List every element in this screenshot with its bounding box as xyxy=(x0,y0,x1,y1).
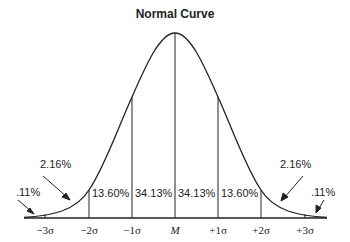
tick-minus-1-sigma: −1σ xyxy=(123,224,141,236)
arrow-right-2pct xyxy=(281,176,303,201)
tick-plus-3-sigma: +3σ xyxy=(296,224,314,236)
pct-label-left-34: 34.13% xyxy=(135,187,173,199)
pct-label-right-2: 2.16% xyxy=(280,158,311,170)
tick-minus-3-sigma: −3σ xyxy=(36,224,54,236)
normal-curve-chart: .11% 2.16% 13.60% 34.13% 34.13% 13.60% 2… xyxy=(0,0,350,242)
pct-label-left-13: 13.60% xyxy=(92,187,130,199)
arrow-far-left xyxy=(18,200,34,214)
tick-plus-1-sigma: +1σ xyxy=(209,224,227,236)
arrow-far-right xyxy=(316,200,324,213)
arrow-left-2pct xyxy=(43,176,70,200)
pct-label-far-left: .11% xyxy=(16,186,40,198)
tick-mean: M xyxy=(169,224,180,236)
pct-label-far-right: .11% xyxy=(311,186,335,198)
pct-label-right-34: 34.13% xyxy=(178,187,216,199)
tick-plus-2-sigma: +2σ xyxy=(252,224,270,236)
pct-label-left-2: 2.16% xyxy=(40,158,71,170)
pct-label-right-13: 13.60% xyxy=(221,187,259,199)
tick-minus-2-sigma: −2σ xyxy=(80,224,98,236)
